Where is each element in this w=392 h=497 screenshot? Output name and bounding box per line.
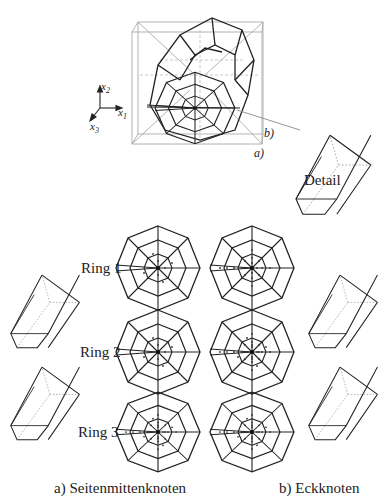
ring2-web-a xyxy=(116,310,200,394)
detail-label: Detail xyxy=(304,172,341,189)
ring1-web-a xyxy=(116,226,200,310)
ring2-prism-left xyxy=(11,275,80,348)
label-b: b) xyxy=(264,126,274,141)
caption-b: b) Eckknoten xyxy=(279,480,359,497)
ring3-prism-right xyxy=(309,367,378,440)
ring3-web-b xyxy=(210,392,294,472)
ring2-prism-right xyxy=(309,275,378,348)
axis-x2-label: x2 xyxy=(101,80,110,95)
axis-x1-label: x1 xyxy=(118,106,127,121)
axis-x3-label: x3 xyxy=(90,120,99,135)
ring2-label: Ring 2 xyxy=(80,344,120,361)
label-a: a) xyxy=(254,146,264,161)
caption-a: a) Seitenmittenknoten xyxy=(54,480,186,497)
ring2-web-b xyxy=(210,310,294,394)
ring3-web-a xyxy=(116,392,200,472)
ring1-web-b xyxy=(210,226,294,310)
ring1-label: Ring 1 xyxy=(81,260,121,277)
ring3-prism-left xyxy=(11,367,80,440)
ring3-label: Ring 3 xyxy=(78,424,118,441)
